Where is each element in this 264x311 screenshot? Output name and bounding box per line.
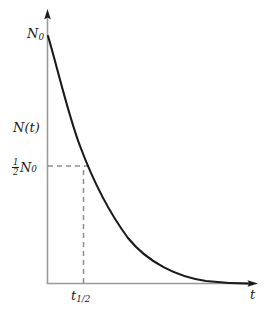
one-half-fraction: 12 <box>12 158 19 176</box>
decay-curve-figure: N0 N(t) 12N0 t1/2 t <box>0 0 264 311</box>
initial-value-subscript: 0 <box>38 32 44 42</box>
decay-curve <box>48 36 252 284</box>
half-life-label: t1/2 <box>71 289 90 302</box>
initial-value-symbol: N <box>27 26 38 41</box>
fraction-numerator: 1 <box>12 158 19 167</box>
half-life-subscript: 1/2 <box>76 294 90 304</box>
initial-value-label: N0 <box>27 27 44 40</box>
fraction-denominator: 2 <box>12 167 19 177</box>
plot-area <box>0 0 264 311</box>
half-value-label: 12N0 <box>12 158 37 176</box>
half-value-subscript: 0 <box>31 165 37 174</box>
x-axis-label: t <box>250 288 255 301</box>
y-axis-label: N(t) <box>13 121 40 134</box>
half-value-symbol: N <box>20 161 31 174</box>
